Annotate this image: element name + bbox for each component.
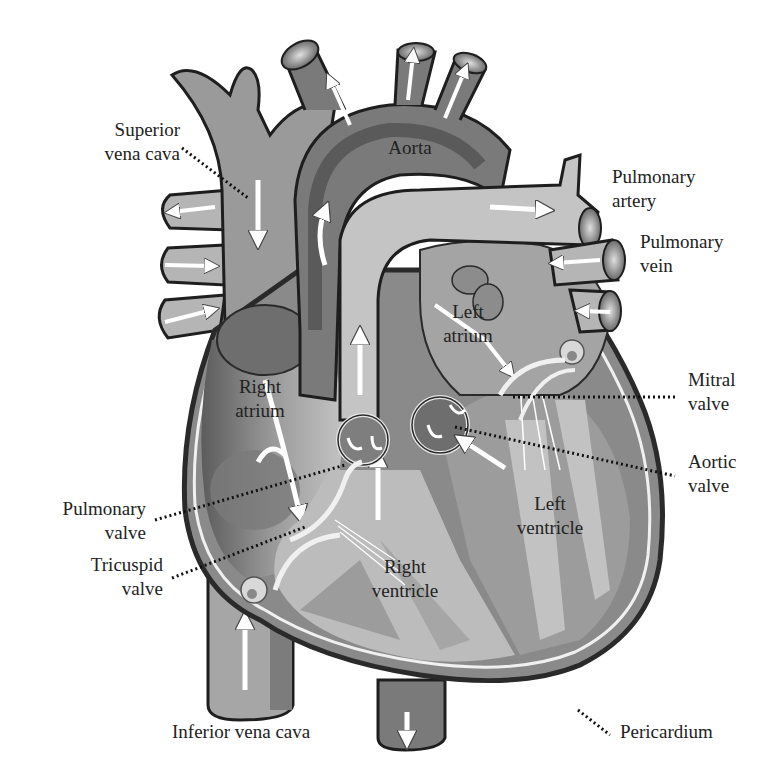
label-mitral-valve: Mitral valve <box>688 368 736 416</box>
label-line: Tricuspid <box>55 553 163 577</box>
label-pulmonary-artery: Pulmonary artery <box>612 165 695 213</box>
label-pulmonary-valve: Pulmonary valve <box>30 497 146 545</box>
label-line: valve <box>55 577 163 601</box>
label-line: Inferior vena cava <box>172 720 310 744</box>
label-line: Aortic <box>688 450 737 474</box>
label-line: Pulmonary <box>30 497 146 521</box>
descending-aorta <box>378 680 445 750</box>
label-line: artery <box>612 189 695 213</box>
right-pulmonary-vessels <box>159 190 230 338</box>
label-line: Aorta <box>380 136 440 160</box>
label-line: atrium <box>432 324 504 348</box>
label-tricuspid-valve: Tricuspid valve <box>55 553 163 601</box>
label-line: Pulmonary <box>612 165 695 189</box>
leader-pericardium <box>578 710 610 735</box>
label-line: Pericardium <box>620 720 713 744</box>
label-superior-vena-cava: Superior vena cava <box>80 118 180 166</box>
label-aorta: Aorta <box>380 136 440 160</box>
label-left-atrium: Left atrium <box>432 300 504 348</box>
label-line: vena cava <box>80 142 180 166</box>
label-line: Superior <box>80 118 180 142</box>
label-line: Left <box>432 300 504 324</box>
label-line: Right <box>360 555 450 579</box>
label-right-atrium: Right atrium <box>225 375 295 423</box>
label-line: Left <box>505 492 595 516</box>
label-right-ventricle: Right ventricle <box>360 555 450 603</box>
label-pericardium: Pericardium <box>620 720 713 744</box>
label-line: vein <box>640 254 723 278</box>
heart-diagram: Superior vena cava Aorta Pulmonary arter… <box>0 0 783 781</box>
label-line: ventricle <box>360 579 450 603</box>
label-line: atrium <box>225 399 295 423</box>
label-line: Pulmonary <box>640 230 723 254</box>
label-line: valve <box>688 474 737 498</box>
label-left-ventricle: Left ventricle <box>505 492 595 540</box>
pulmonary-valve <box>338 415 388 465</box>
label-line: Mitral <box>688 368 736 392</box>
label-pulmonary-vein: Pulmonary vein <box>640 230 723 278</box>
label-line: ventricle <box>505 516 595 540</box>
label-line: valve <box>30 521 146 545</box>
label-inferior-vena-cava: Inferior vena cava <box>172 720 310 744</box>
label-line: Right <box>225 375 295 399</box>
label-line: valve <box>688 392 736 416</box>
label-aortic-valve: Aortic valve <box>688 450 737 498</box>
